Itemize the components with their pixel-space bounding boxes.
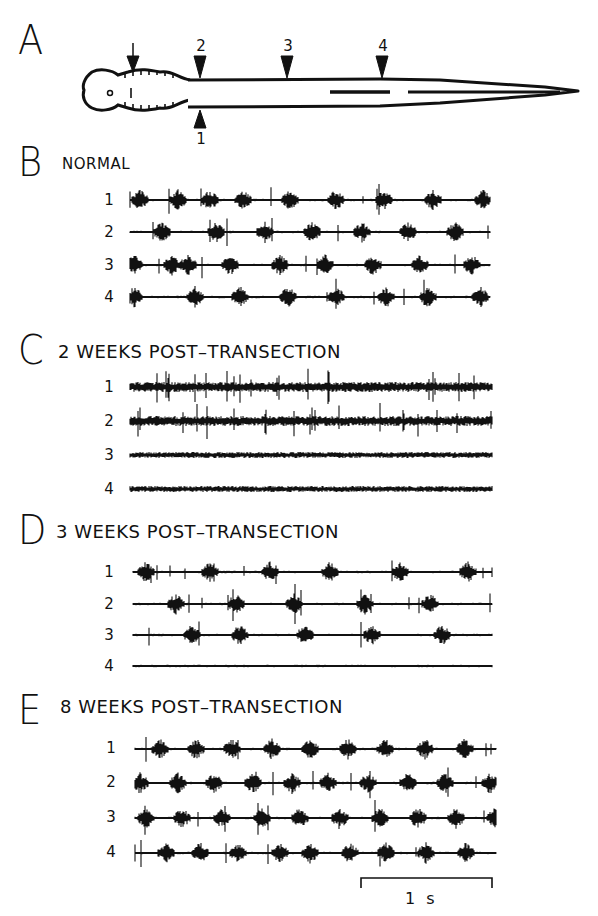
scale-bar xyxy=(0,0,598,916)
scale-bar-label: 1 s xyxy=(405,890,438,908)
